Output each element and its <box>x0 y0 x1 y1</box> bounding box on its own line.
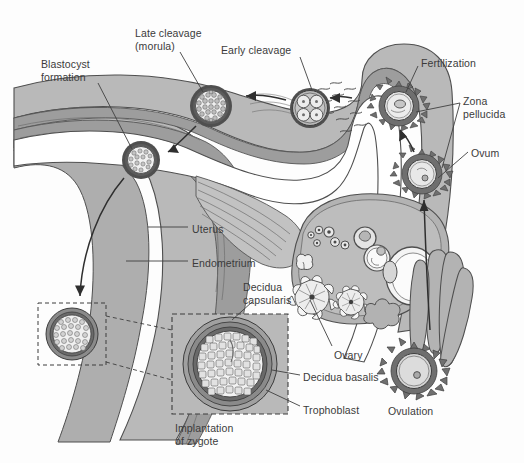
label-ovulation: Ovulation <box>388 405 433 418</box>
label-decidua-capsularis: Decidua capsularis <box>243 281 291 306</box>
figure-canvas: Blastocyst formation Late cleavage (moru… <box>0 0 524 463</box>
label-ovary: Ovary <box>334 349 363 362</box>
label-endometrium: Endometrium <box>192 257 256 270</box>
label-fertilization: Fertilization <box>421 57 476 70</box>
stage-early-cleavage <box>290 88 330 128</box>
label-late-cleavage-morula: Late cleavage (morula) <box>135 27 202 52</box>
label-trophoblast: Trophoblast <box>303 404 359 417</box>
stage-late-cleavage-morula <box>190 85 232 127</box>
label-implantation-of-zygote: Implantation of zygote <box>175 422 233 447</box>
label-zona-pellucida: Zona pellucida <box>463 95 505 120</box>
label-decidua-basalis: Decidua basalis <box>303 371 379 384</box>
atretic-follicle <box>296 254 312 270</box>
stage-blastocyst <box>122 141 160 179</box>
label-early-cleavage: Early cleavage <box>221 44 291 57</box>
label-blastocyst-formation: Blastocyst formation <box>41 58 90 83</box>
label-ovum: Ovum <box>471 147 499 160</box>
label-uterus: Uterus <box>192 223 224 236</box>
